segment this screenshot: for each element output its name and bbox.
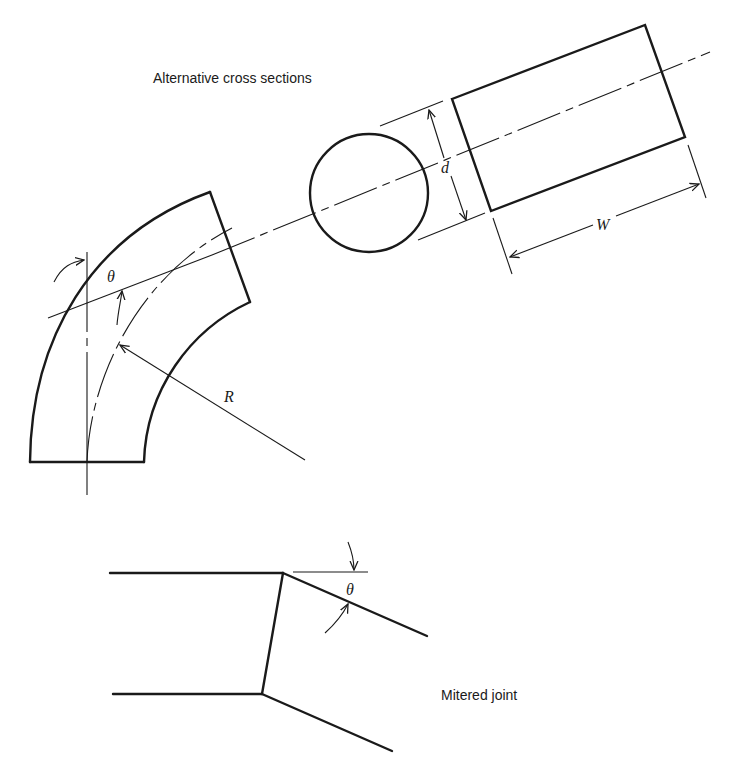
d-extension-bottom	[418, 213, 485, 240]
radius-label: R	[223, 388, 234, 405]
w-arrow-left	[510, 225, 593, 257]
diameter-dimension: d	[380, 101, 485, 240]
w-extension-right	[688, 145, 706, 198]
d-arrow-up	[429, 110, 444, 158]
bend-theta-label: θ	[107, 268, 115, 285]
radius-dimension: R	[120, 345, 305, 460]
bend-outer-wall	[30, 192, 210, 462]
rectangular-cross-section	[452, 25, 685, 211]
d-arrow-down	[451, 176, 466, 220]
miter-joint-face	[262, 573, 283, 694]
smooth-bend	[30, 192, 250, 495]
miter-top-angled	[283, 573, 427, 636]
bend-angle-arrow-top	[54, 260, 84, 282]
bend-diagram: Alternative cross sections R θ	[0, 0, 739, 773]
width-label: W	[596, 216, 611, 233]
w-arrow-right	[616, 184, 699, 216]
rectangle-section	[452, 25, 685, 211]
width-dimension: W	[493, 145, 706, 274]
bend-angle-arrow-bottom	[117, 291, 122, 325]
mitered-joint: θ	[110, 542, 427, 751]
circle-section	[310, 134, 428, 252]
d-extension-top	[380, 101, 443, 126]
bend-inner-wall	[144, 302, 250, 462]
mitered-caption: Mitered joint	[441, 687, 517, 703]
bend-exit-line	[48, 255, 212, 318]
bend-center-arc	[87, 228, 232, 462]
cross-sections-caption: Alternative cross sections	[153, 70, 312, 86]
miter-angle-arrow-top	[348, 542, 354, 570]
miter-theta-label: θ	[346, 581, 354, 598]
w-extension-left	[493, 218, 512, 274]
radius-line	[120, 345, 305, 460]
circular-cross-section	[310, 134, 428, 252]
bend-end-face	[210, 192, 250, 302]
miter-bottom-angled	[262, 694, 392, 751]
diameter-label: d	[441, 159, 450, 176]
miter-angle-arrow-bottom	[325, 604, 348, 633]
